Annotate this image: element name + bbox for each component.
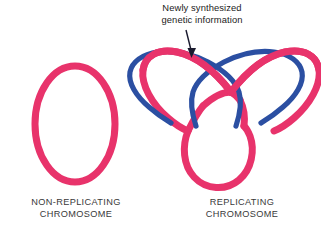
replicating-caption-line-1: REPLICATING: [168, 196, 316, 208]
replicating-caption: REPLICATING CHROMOSOME: [168, 196, 316, 220]
annotation-line-1: Newly synthesized: [140, 2, 264, 14]
chromosome-replication-figure: Newly synthesized genetic information NO…: [0, 0, 321, 238]
arrow-shaft: [186, 30, 191, 50]
replicating-chromosome-shape: [130, 51, 320, 188]
annotation-label: Newly synthesized genetic information: [140, 2, 264, 25]
non-replicating-caption-line-1: NON-REPLICATING: [2, 196, 150, 208]
parental-strand-left-rim: [143, 51, 231, 92]
parental-strand-lower-lobe: [184, 126, 252, 188]
non-replicating-chromosome-shape: [35, 66, 115, 182]
parental-dna-loop: [35, 66, 115, 182]
non-replicating-caption: NON-REPLICATING CHROMOSOME: [2, 196, 150, 220]
parental-strand-right-rim: [231, 51, 319, 92]
annotation-line-2: genetic information: [140, 14, 264, 26]
parental-strand-crossover-left: [203, 92, 231, 106]
non-replicating-caption-line-2: CHROMOSOME: [2, 208, 150, 220]
replicating-caption-line-2: CHROMOSOME: [168, 208, 316, 220]
